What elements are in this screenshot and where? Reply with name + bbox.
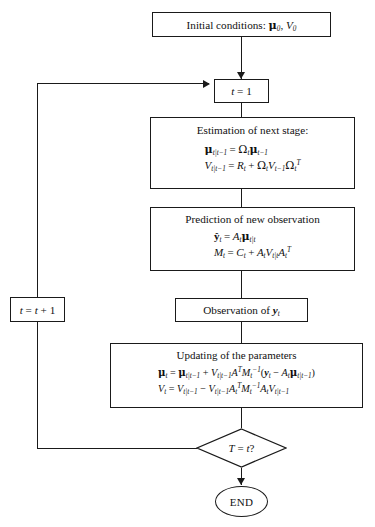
updating-equation-1: μt=μt|t−1+Vt|t−1ATMt−1(yt−Atμt|t−1) (158, 365, 315, 381)
estimation-equation-2: Vt|t−1=Rt+ΩtVt−1ΩtT (205, 158, 301, 174)
decision-node: T = t? (196, 428, 287, 468)
arrowhead-into-tinit-left (203, 80, 210, 88)
connector-prediction-to-observation (241, 271, 242, 298)
increment-text: t = t + 1 (20, 303, 56, 317)
flowchart-canvas: Initial conditions: μ0, V0 t = 1 Estimat… (0, 0, 375, 527)
prediction-node: Prediction of new observation ŷt=Atμt|t … (150, 207, 355, 271)
connector-feedback-top-rail (37, 83, 209, 84)
arrowhead-into-end (237, 478, 245, 485)
prediction-equation-2: Mt=Ct+AtVt|tAtT (214, 245, 291, 261)
connector-feedback-vertical (37, 83, 38, 448)
estimation-node: Estimation of next stage: μt|t−1=Ωtμt−1 … (150, 117, 355, 189)
initial-conditions-text: Initial conditions: μ0, V0 (187, 18, 297, 32)
increment-node: t = t + 1 (10, 297, 65, 322)
updating-header: Updating of the parameters (176, 348, 296, 362)
connector-decision-no-branch (37, 448, 197, 449)
updating-node: Updating of the parameters μt=μt|t−1+Vt|… (110, 343, 363, 408)
observation-node: Observation of yt (175, 298, 308, 322)
end-text: END (230, 496, 254, 508)
connector-updating-to-decision (241, 408, 242, 428)
prediction-header: Prediction of new observation (185, 212, 320, 226)
t-init-text: t = 1 (231, 84, 252, 98)
connector-estimation-to-prediction (241, 189, 242, 207)
t-init-node: t = 1 (214, 79, 269, 103)
end-node: END (215, 486, 268, 517)
estimation-equation-1: μt|t−1=Ωtμt−1 (205, 142, 268, 158)
observation-text: Observation of yt (203, 303, 280, 317)
decision-text: T = t? (196, 428, 287, 468)
updating-equation-2: Vt=Vt|t−1−Vt|t−1AtTMt−1AtVt|t−1 (158, 381, 289, 397)
initial-conditions-node: Initial conditions: μ0, V0 (152, 12, 331, 37)
connector-observation-to-updating (241, 322, 242, 343)
arrowhead-into-tinit-top (237, 72, 245, 79)
estimation-header: Estimation of next stage: (197, 123, 309, 137)
prediction-equation-1: ŷt=Atμt|t (214, 229, 256, 245)
